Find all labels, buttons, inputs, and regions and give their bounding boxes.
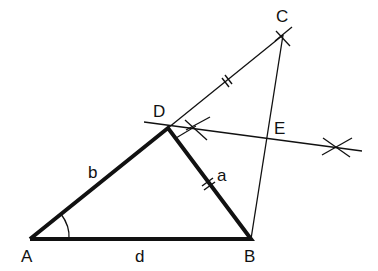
- angle-mark-a: [61, 214, 69, 239]
- side-label-a: a: [217, 166, 227, 185]
- point-label-a: A: [21, 247, 33, 266]
- side-label-d: d: [135, 247, 144, 266]
- arc-cross-right: [322, 138, 352, 157]
- point-label-d: D: [153, 102, 165, 121]
- side-label-b: b: [88, 163, 97, 182]
- construction-diagram: C D E A B b a d: [0, 0, 378, 271]
- point-label-e: E: [274, 119, 285, 138]
- point-label-b: B: [244, 247, 255, 266]
- arc-cross-c: [275, 27, 292, 46]
- point-label-c: C: [276, 7, 288, 26]
